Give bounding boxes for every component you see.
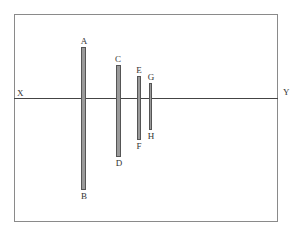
diagram-frame: [14, 14, 278, 222]
bar-ab: [81, 47, 86, 190]
label-c: C: [115, 55, 121, 64]
label-y: Y: [283, 88, 290, 97]
bar-ef: [137, 76, 141, 140]
label-x: X: [17, 89, 24, 98]
xy-line: [14, 98, 278, 99]
label-f: F: [136, 142, 141, 151]
label-b: B: [81, 192, 87, 201]
label-e: E: [136, 66, 142, 75]
bar-gh: [149, 83, 152, 130]
label-g: G: [148, 73, 155, 82]
bar-cd: [116, 65, 121, 157]
label-h: H: [148, 132, 155, 141]
label-d: D: [116, 159, 123, 168]
label-a: A: [81, 37, 88, 46]
